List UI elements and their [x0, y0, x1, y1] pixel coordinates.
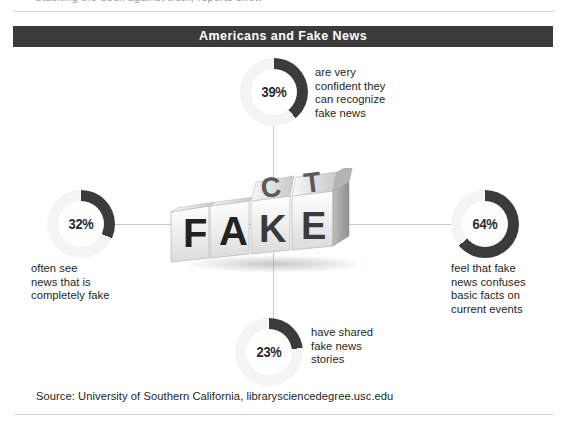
label-line: basic facts on [451, 289, 566, 303]
label-line: news that is [31, 276, 171, 290]
donut-chart-have-shared: 23% [235, 318, 303, 386]
svg-text:K: K [259, 208, 287, 250]
page-title: Americans and Fake News [13, 29, 553, 43]
label-line: have shared [311, 326, 431, 340]
svg-text:T: T [302, 168, 323, 199]
top-cutoff-text: stacking the deck against truth, reports… [36, 0, 263, 3]
fake-to-fact-dice-graphic: F A K C E T [163, 168, 378, 280]
label-line: often see [31, 262, 171, 276]
donut-value-top: 39% [245, 83, 303, 100]
svg-text:F: F [183, 211, 207, 255]
donut-value-right: 64% [456, 215, 514, 232]
label-line: can recognize [315, 93, 445, 107]
top-divider-rule [14, 11, 554, 12]
donut-label-often-see-fake: often see news that is completely fake [31, 262, 171, 303]
donut-label-confuses-basic-facts: feel that fake news confuses basic facts… [451, 262, 566, 316]
infographic-page: stacking the deck against truth, reports… [0, 0, 566, 433]
svg-text:C: C [259, 171, 283, 204]
label-line: stories [311, 353, 431, 367]
donut-chart-often-see-fake: 32% [47, 190, 115, 258]
dice-block-a: A [210, 197, 255, 258]
svg-text:A: A [219, 209, 248, 253]
donut-label-have-shared: have shared fake news stories [311, 326, 431, 367]
donut-chart-confuses-basic-facts: 64% [451, 190, 519, 258]
donut-value-left: 32% [52, 215, 110, 232]
source-line: Source: University of Southern Californi… [36, 390, 393, 402]
label-line: feel that fake [451, 262, 566, 276]
dice-svg: F A K C E T [163, 168, 378, 280]
dice-block-f: F [171, 202, 215, 262]
bottom-divider-rule [14, 414, 554, 415]
label-line: completely fake [31, 289, 171, 303]
donut-label-confident-recognize: are very confident they can recognize fa… [315, 66, 445, 120]
dice-block-k-c: K C [251, 171, 294, 254]
label-line: are very [315, 66, 445, 80]
label-line: fake news [315, 107, 445, 121]
svg-text:E: E [301, 205, 326, 247]
donut-chart-confident-recognize: 39% [240, 58, 308, 126]
label-line: news confuses [451, 276, 566, 290]
dice-block-e-t: E T [292, 168, 353, 250]
label-line: confident they [315, 80, 445, 94]
top-cutoff-text-strip: stacking the deck against truth, reports… [0, 0, 566, 5]
donut-value-bottom: 23% [240, 343, 298, 360]
label-line: current events [451, 303, 566, 317]
title-bar: Americans and Fake News [13, 26, 553, 47]
label-line: fake news [311, 340, 431, 354]
